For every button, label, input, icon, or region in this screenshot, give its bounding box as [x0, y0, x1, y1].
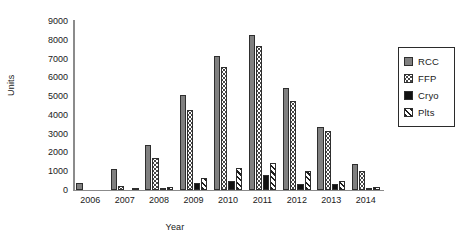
bar-ffp-2007 — [118, 186, 124, 190]
bar-ffp-2014 — [359, 171, 365, 190]
x-axis-tick-label: 2012 — [287, 195, 307, 205]
y-axis-tick-label: 2000 — [48, 148, 68, 157]
bar-cryo-2010 — [228, 181, 234, 190]
bar-group — [142, 21, 176, 190]
x-axis-title: Year — [0, 222, 466, 232]
bar-plts-2010 — [236, 168, 242, 190]
y-axis-tick-label: 8000 — [48, 35, 68, 44]
y-axis-tick-label: 6000 — [48, 73, 68, 82]
bar-rcc-2012 — [283, 88, 289, 190]
y-axis-tick-label: 7000 — [48, 54, 68, 63]
bar-cryo-2012 — [297, 184, 303, 190]
legend-label: Cryo — [418, 91, 439, 101]
x-axis-tick-label: 2013 — [321, 195, 341, 205]
chart-legend: RCCFFPCryoPlts — [398, 47, 455, 127]
y-axis-tick-label: 5000 — [48, 92, 68, 101]
bar-ffp-2010 — [221, 67, 227, 190]
x-axis-tick-label: 2009 — [184, 195, 204, 205]
legend-label: RCC — [418, 57, 439, 67]
bar-rcc-2013 — [317, 127, 323, 190]
bar-group — [176, 21, 210, 190]
bar-plts-2013 — [339, 181, 345, 190]
bar-rcc-2007 — [111, 169, 117, 190]
legend-label: FFP — [418, 74, 437, 84]
bar-rcc-2006 — [76, 183, 82, 190]
bar-ffp-2008 — [152, 158, 158, 190]
bar-cryo-2014 — [366, 188, 372, 190]
x-axis-tick-label: 2008 — [149, 195, 169, 205]
bar-rcc-2008 — [145, 145, 151, 190]
bar-plts-2011 — [270, 163, 276, 190]
legend-swatch-plts-icon — [404, 108, 413, 117]
x-axis-tick-label: 2010 — [218, 195, 238, 205]
bar-chart: Units 0100020003000400050006000700080009… — [0, 0, 466, 241]
legend-label: Plts — [418, 108, 435, 118]
bar-rcc-2010 — [214, 56, 220, 190]
bar-group — [314, 21, 348, 190]
y-axis-tick-label: 1000 — [48, 167, 68, 176]
bar-rcc-2009 — [180, 95, 186, 190]
y-axis-tick-label: 0 — [63, 186, 68, 195]
legend-item-cryo[interactable]: Cryo — [404, 87, 450, 104]
bar-cryo-2011 — [263, 175, 269, 190]
bar-ffp-2012 — [290, 101, 296, 190]
legend-swatch-rcc-icon — [404, 57, 413, 66]
y-axis-tick-label: 9000 — [48, 17, 68, 26]
y-axis-tick-label: 3000 — [48, 129, 68, 138]
bar-group — [211, 21, 245, 190]
bar-plts-2009 — [201, 178, 207, 190]
y-axis-tick-label: 4000 — [48, 110, 68, 119]
bar-ffp-2009 — [187, 110, 193, 190]
bar-cryo-2008 — [160, 188, 166, 190]
bar-plts-2014 — [373, 187, 379, 190]
y-axis-title: Units — [6, 74, 16, 96]
x-axis-tick-label: 2011 — [253, 195, 272, 205]
bar-group — [73, 21, 107, 190]
bar-cryo-2013 — [332, 184, 338, 190]
bar-group — [107, 21, 141, 190]
bar-group — [280, 21, 314, 190]
x-axis-tick-label: 2014 — [356, 195, 376, 205]
bar-group — [349, 21, 383, 190]
bar-ffp-2011 — [256, 46, 262, 190]
bar-rcc-2014 — [352, 164, 358, 190]
legend-swatch-cryo-icon — [404, 91, 413, 100]
bar-ffp-2013 — [325, 131, 331, 190]
bar-group — [245, 21, 279, 190]
legend-item-plts[interactable]: Plts — [404, 104, 450, 121]
plot-area: 0100020003000400050006000700080009000200… — [73, 21, 383, 190]
x-axis-line — [73, 190, 384, 191]
bar-plts-2008 — [167, 187, 173, 190]
x-axis-tick-label: 2006 — [80, 195, 100, 205]
legend-item-rcc[interactable]: RCC — [404, 53, 450, 70]
bar-rcc-2011 — [249, 35, 255, 190]
bar-plts-2012 — [305, 171, 311, 190]
bar-cryo-2009 — [194, 183, 200, 191]
x-axis-tick-label: 2007 — [115, 195, 135, 205]
bar-plts-2007 — [132, 188, 138, 190]
legend-swatch-ffp-icon — [404, 74, 413, 83]
legend-item-ffp[interactable]: FFP — [404, 70, 450, 87]
